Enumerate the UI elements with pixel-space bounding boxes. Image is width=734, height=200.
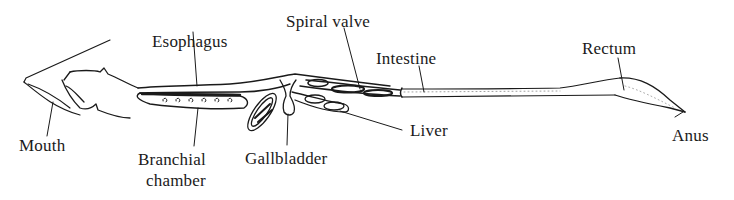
leader-rectum — [618, 58, 624, 90]
intestine-tube — [402, 78, 620, 97]
leader-liver — [340, 111, 402, 130]
label-liver: Liver — [410, 122, 448, 139]
label-esophagus: Esophagus — [152, 33, 227, 50]
label-branchial-line1: Branchial — [138, 151, 206, 168]
label-intestine: Intestine — [376, 50, 436, 67]
gill-slits — [163, 98, 232, 102]
label-rectum: Rectum — [582, 40, 636, 57]
liver-right-lobe — [292, 92, 349, 112]
mouth-region — [62, 68, 138, 118]
liver-left-lobe — [243, 89, 281, 134]
esophagus-tube — [138, 74, 390, 93]
leader-anus — [675, 112, 683, 117]
leader-branchial — [194, 108, 198, 146]
label-gallbladder: Gallbladder — [245, 150, 327, 167]
branchial-chamber — [137, 93, 247, 109]
label-anus: Anus — [672, 127, 709, 144]
label-spiral-valve: Spiral valve — [286, 13, 370, 30]
leader-mouth — [47, 102, 53, 136]
head-outline — [24, 40, 110, 115]
leader-spiral-valve — [344, 28, 360, 89]
leader-intestine — [419, 66, 424, 92]
label-mouth: Mouth — [19, 137, 65, 154]
rectum-shape — [615, 78, 685, 112]
label-branchial-line2: chamber — [146, 172, 206, 189]
leader-gallbladder — [287, 114, 288, 145]
